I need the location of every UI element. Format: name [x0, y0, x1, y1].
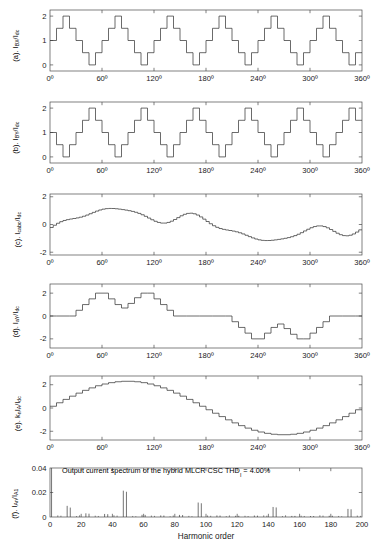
panel-b-ytick-label: 2: [42, 104, 46, 113]
panel-a-ytick-label: 0: [42, 61, 46, 70]
panel-c-xtick-label: 300º: [302, 258, 318, 267]
panel-f-xtick-label: 140: [262, 520, 275, 529]
panel-c: (c). Icabc/Idc 0º60º120º180º240º300º360º…: [0, 184, 377, 276]
panel-d: (d). IaY/Idc 0º60º120º180º240º300º360º-2…: [0, 276, 377, 368]
panel-e-xtick-label: 240º: [250, 443, 266, 452]
panel-f-xaxis-title: Harmonic order: [178, 532, 235, 541]
panel-e-xtick-label: 360º: [354, 443, 370, 452]
panel-f-xtick-label: 80: [171, 520, 179, 529]
panel-a-xtick-label: 360º: [354, 74, 370, 83]
spectrum-annotation-text1: Output current spectrum of the hybrid ML…: [62, 466, 240, 475]
spectrum-annotation-text2: = 4.00%: [241, 466, 270, 475]
panel-d-ytick-label: -2: [40, 334, 47, 343]
panel-e-xtick-label: 60º: [96, 443, 107, 452]
panel-a-xtick-label: 240º: [250, 74, 266, 83]
panel-c-xtick-label: 240º: [250, 258, 266, 267]
panel-d-xtick-label: 60º: [96, 351, 107, 360]
panel-a-ytick-label: 1: [42, 36, 46, 45]
panel-b-waveform: [50, 108, 362, 157]
panel-f-xtick-label: 160: [293, 520, 306, 529]
panel-f-xtick-label: 20: [77, 520, 85, 529]
panel-c-ytick-label: 0: [42, 220, 46, 229]
panel-f-xtick-label: 120: [231, 520, 244, 529]
panel-c-xtick-label: 360º: [354, 258, 370, 267]
panel-f-ytick-label: 0.04: [32, 464, 47, 473]
panel-d-xtick-label: 120º: [146, 351, 162, 360]
panel-c-ytick-label: 2: [42, 192, 46, 201]
panel-b-ytick-label: 0: [42, 153, 46, 162]
panel-a: (a). IBX/Idc 0º60º120º180º240º300º360º01…: [0, 0, 377, 92]
panel-b-plot: 0º60º120º180º240º300º360º012: [0, 92, 377, 184]
panel-c-frame: [50, 194, 362, 255]
panel-d-waveform: [50, 293, 362, 339]
panel-e: (e). knIA/Idc 0º60º120º180º240º300º360º-…: [0, 368, 377, 460]
panel-f-xtick-label: 200: [356, 520, 369, 529]
panel-e-xtick-label: 0º: [47, 443, 54, 452]
panel-f-xtick-label: 100: [200, 520, 213, 529]
panel-c-waveform: [50, 208, 362, 240]
panel-f-xtick-label: 40: [108, 520, 116, 529]
panel-a-plot: 0º60º120º180º240º300º360º012: [0, 0, 377, 92]
panel-d-ytick-label: 0: [42, 312, 46, 321]
panel-b: (b). IBY/Idc 0º60º120º180º240º300º360º01…: [0, 92, 377, 184]
panel-e-ytick-label: 2: [42, 380, 46, 389]
panel-f-ytick-label: 0.02: [32, 488, 47, 497]
panel-d-plot: 0º60º120º180º240º300º360º-202: [0, 276, 377, 368]
panel-f-xtick-label: 180: [324, 520, 337, 529]
panel-f-xtick-label: 60: [139, 520, 147, 529]
panel-c-plot: 0º60º120º180º240º300º360º-202: [0, 184, 377, 276]
panel-c-ytick-label: -2: [40, 248, 47, 257]
panel-b-xtick-label: 180º: [198, 166, 214, 175]
panel-d-ytick-label: 2: [42, 289, 46, 298]
panel-d-xtick-label: 180º: [198, 351, 214, 360]
panel-c-xtick-label: 60º: [96, 258, 107, 267]
panel-b-xtick-label: 360º: [354, 166, 370, 175]
panel-a-xtick-label: 60º: [96, 74, 107, 83]
panel-b-xtick-label: 300º: [302, 166, 318, 175]
panel-a-xtick-label: 0º: [47, 74, 54, 83]
panel-d-xtick-label: 0º: [47, 351, 54, 360]
panel-e-xtick-label: 180º: [198, 443, 214, 452]
panel-a-xtick-label: 300º: [302, 74, 318, 83]
panel-d-xtick-label: 240º: [250, 351, 266, 360]
panel-b-xtick-label: 120º: [146, 166, 162, 175]
panel-a-xtick-label: 120º: [146, 74, 162, 83]
figure-root: (a). IBX/Idc 0º60º120º180º240º300º360º01…: [0, 0, 377, 547]
panel-a-ytick-label: 2: [42, 12, 46, 21]
panel-b-xtick-label: 60º: [96, 166, 107, 175]
panel-f-xtick-label: 0: [48, 520, 52, 529]
spectrum-annotation: Output current spectrum of the hybrid ML…: [62, 466, 270, 476]
panel-e-plot: 0º60º120º180º240º300º360º-202: [0, 368, 377, 460]
panel-c-xtick-label: 120º: [146, 258, 162, 267]
panel-c-xtick-label: 0º: [47, 258, 54, 267]
panel-e-waveform: [50, 381, 362, 434]
panel-a-waveform: [50, 16, 362, 65]
panel-d-xtick-label: 360º: [354, 351, 370, 360]
panel-a-xtick-label: 180º: [198, 74, 214, 83]
panel-e-xtick-label: 300º: [302, 443, 318, 452]
panel-c-xtick-label: 180º: [198, 258, 214, 267]
panel-b-xtick-label: 0º: [47, 166, 54, 175]
panel-e-xtick-label: 120º: [146, 443, 162, 452]
panel-b-xtick-label: 240º: [250, 166, 266, 175]
panel-d-xtick-label: 300º: [302, 351, 318, 360]
panel-e-ytick-label: -2: [40, 427, 47, 436]
panel-f-ytick-label: 0: [42, 513, 46, 522]
panel-b-ytick-label: 1: [42, 128, 46, 137]
panel-e-ytick-label: 0: [42, 404, 46, 413]
